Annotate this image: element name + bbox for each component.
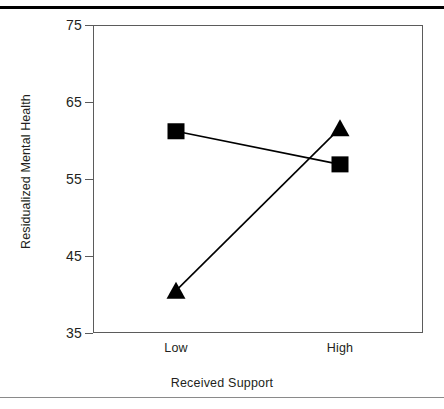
data-point-triangle [331,119,350,136]
y-axis-tick-label: 35 [42,326,82,340]
plot-data-layer [93,25,423,333]
x-axis-title: Received Support [0,376,444,390]
y-axis-tick-mark [85,25,93,26]
x-axis-tick-label: Low [131,341,221,355]
data-point-square [332,156,349,172]
y-axis-tick-mark [85,179,93,180]
page-bottom-rule [0,397,444,398]
y-axis-tick-label: 65 [42,95,82,109]
y-axis-tick-mark [85,333,93,334]
chart-figure: Residualized Mental Health 7565554535 Lo… [0,10,444,395]
y-axis-tick-label: 75 [42,18,82,32]
data-point-square [168,123,185,139]
y-axis-tick-label: 45 [42,249,82,263]
y-axis-tick-label: 55 [42,172,82,186]
series-line [176,131,340,164]
y-axis-tick-mark [85,102,93,103]
x-axis-tick-label: High [295,341,385,355]
y-axis-tick-mark [85,256,93,257]
page-top-rule [0,6,444,9]
series-line [176,128,340,290]
y-axis-title: Residualized Mental Health [20,72,33,272]
